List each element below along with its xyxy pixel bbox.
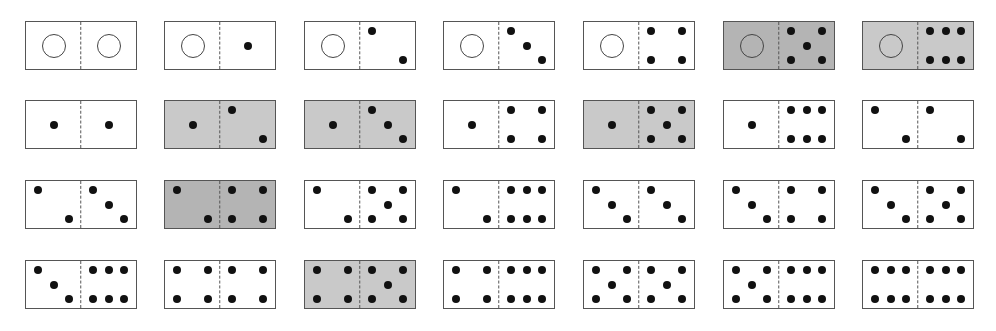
pip-icon bbox=[957, 56, 965, 64]
pip-icon bbox=[228, 215, 236, 223]
blank-circle-icon bbox=[740, 34, 764, 58]
domino-2-2 bbox=[862, 100, 974, 149]
pip-icon bbox=[887, 201, 895, 209]
right-half-4 bbox=[639, 22, 694, 69]
left-half-2 bbox=[863, 101, 918, 148]
pip-icon bbox=[818, 215, 826, 223]
pip-icon bbox=[344, 215, 352, 223]
blank-circle-icon bbox=[879, 34, 903, 58]
pip-icon bbox=[592, 266, 600, 274]
domino-6-6 bbox=[862, 260, 974, 309]
right-half-5 bbox=[639, 101, 694, 148]
right-half-4 bbox=[499, 101, 554, 148]
domino-0-2 bbox=[304, 21, 416, 70]
pip-icon bbox=[957, 266, 965, 274]
pip-icon bbox=[228, 106, 236, 114]
left-half-2 bbox=[26, 181, 81, 228]
pip-icon bbox=[120, 266, 128, 274]
pip-icon bbox=[483, 266, 491, 274]
pip-icon bbox=[887, 266, 895, 274]
pip-icon bbox=[803, 266, 811, 274]
domino-5-6 bbox=[723, 260, 835, 309]
pip-icon bbox=[871, 186, 879, 194]
pip-icon bbox=[173, 295, 181, 303]
pip-icon bbox=[244, 42, 252, 50]
left-half-0 bbox=[724, 22, 779, 69]
pip-icon bbox=[787, 27, 795, 35]
pip-icon bbox=[259, 186, 267, 194]
pip-icon bbox=[50, 121, 58, 129]
pip-icon bbox=[818, 27, 826, 35]
pip-icon bbox=[592, 295, 600, 303]
domino-1-1 bbox=[25, 100, 137, 149]
pip-icon bbox=[902, 135, 910, 143]
domino-0-6 bbox=[862, 21, 974, 70]
pip-icon bbox=[50, 281, 58, 289]
pip-icon bbox=[259, 295, 267, 303]
pip-icon bbox=[887, 295, 895, 303]
pip-icon bbox=[313, 186, 321, 194]
pip-icon bbox=[538, 56, 546, 64]
left-half-3 bbox=[584, 181, 639, 228]
left-half-3 bbox=[26, 261, 81, 308]
domino-3-4 bbox=[723, 180, 835, 229]
pip-icon bbox=[452, 266, 460, 274]
pip-icon bbox=[538, 186, 546, 194]
pip-icon bbox=[647, 135, 655, 143]
pip-icon bbox=[592, 186, 600, 194]
pip-icon bbox=[608, 201, 616, 209]
left-half-4 bbox=[305, 261, 360, 308]
pip-icon bbox=[204, 295, 212, 303]
pip-icon bbox=[803, 135, 811, 143]
domino-0-4 bbox=[583, 21, 695, 70]
pip-icon bbox=[259, 135, 267, 143]
pip-icon bbox=[538, 135, 546, 143]
domino-1-4 bbox=[443, 100, 555, 149]
blank-circle-icon bbox=[181, 34, 205, 58]
pip-icon bbox=[942, 27, 950, 35]
pip-icon bbox=[902, 215, 910, 223]
pip-icon bbox=[120, 295, 128, 303]
pip-icon bbox=[787, 186, 795, 194]
pip-icon bbox=[523, 266, 531, 274]
pip-icon bbox=[678, 106, 686, 114]
pip-icon bbox=[399, 215, 407, 223]
domino-4-5 bbox=[304, 260, 416, 309]
pip-icon bbox=[787, 266, 795, 274]
pip-icon bbox=[34, 186, 42, 194]
pip-icon bbox=[926, 266, 934, 274]
left-half-1 bbox=[444, 101, 499, 148]
pip-icon bbox=[329, 121, 337, 129]
blank-circle-icon bbox=[600, 34, 624, 58]
domino-1-2 bbox=[164, 100, 276, 149]
pip-icon bbox=[189, 121, 197, 129]
pip-icon bbox=[228, 295, 236, 303]
pip-icon bbox=[732, 266, 740, 274]
pip-icon bbox=[384, 281, 392, 289]
left-half-0 bbox=[863, 22, 918, 69]
pip-icon bbox=[483, 215, 491, 223]
pip-icon bbox=[748, 201, 756, 209]
pip-icon bbox=[926, 186, 934, 194]
left-half-4 bbox=[165, 261, 220, 308]
pip-icon bbox=[763, 215, 771, 223]
domino-1-6 bbox=[723, 100, 835, 149]
right-half-0 bbox=[81, 22, 136, 69]
pip-icon bbox=[399, 186, 407, 194]
pip-icon bbox=[344, 266, 352, 274]
pip-icon bbox=[368, 106, 376, 114]
pip-icon bbox=[523, 295, 531, 303]
pip-icon bbox=[507, 266, 515, 274]
pip-icon bbox=[65, 295, 73, 303]
pip-icon bbox=[663, 281, 671, 289]
pip-icon bbox=[748, 281, 756, 289]
pip-icon bbox=[748, 121, 756, 129]
pip-icon bbox=[89, 186, 97, 194]
pip-icon bbox=[507, 106, 515, 114]
pip-icon bbox=[957, 295, 965, 303]
pip-icon bbox=[818, 106, 826, 114]
pip-icon bbox=[623, 266, 631, 274]
pip-icon bbox=[313, 266, 321, 274]
pip-icon bbox=[871, 106, 879, 114]
left-half-0 bbox=[444, 22, 499, 69]
